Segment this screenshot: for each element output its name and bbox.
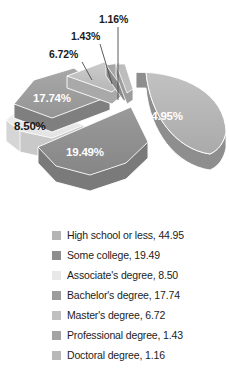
legend-item-professional: Professional degree, 1.43 — [0, 325, 229, 345]
legend-swatch-icon — [52, 231, 61, 240]
legend-swatch-icon — [52, 251, 61, 260]
legend-label: Some college, 19.49 — [67, 249, 160, 261]
legend-label: Master's degree, 6.72 — [67, 309, 165, 321]
legend-swatch-icon — [52, 271, 61, 280]
legend-label: High school or less, 44.95 — [67, 229, 184, 241]
slice-label-associates: 8.50% — [14, 120, 46, 132]
legend-label: Doctoral degree, 1.16 — [67, 349, 165, 361]
slice-callout-professional: 1.43% — [71, 30, 100, 42]
legend-swatch-icon — [52, 351, 61, 360]
legend-item-masters: Master's degree, 6.72 — [0, 305, 229, 325]
legend-swatch-icon — [52, 291, 61, 300]
slice-callout-doctoral: 1.16% — [99, 13, 128, 25]
legend-label: Bachelor's degree, 17.74 — [67, 289, 180, 301]
chart-legend: High school or less, 44.95 Some college,… — [0, 225, 229, 365]
pie-graphic — [0, 0, 229, 218]
legend-swatch-icon — [52, 311, 61, 320]
legend-swatch-icon — [52, 331, 61, 340]
legend-item-doctoral: Doctoral degree, 1.16 — [0, 345, 229, 365]
legend-label: Associate's degree, 8.50 — [67, 269, 178, 281]
slice-label-bachelors: 17.74% — [33, 92, 71, 104]
legend-item-high-school: High school or less, 44.95 — [0, 225, 229, 245]
legend-item-associates: Associate's degree, 8.50 — [0, 265, 229, 285]
slice-label-high-school: 44.95% — [145, 110, 183, 122]
slice-callout-masters: 6.72% — [49, 48, 78, 60]
legend-label: Professional degree, 1.43 — [67, 329, 183, 341]
legend-item-some-college: Some college, 19.49 — [0, 245, 229, 265]
pie-plot-area: 1.16% 1.43% 6.72% 44.95% 19.49% 17.74% 8… — [0, 0, 229, 218]
pie-chart: 1.16% 1.43% 6.72% 44.95% 19.49% 17.74% 8… — [0, 0, 229, 374]
slice-label-some-college: 19.49% — [66, 146, 104, 158]
legend-item-bachelors: Bachelor's degree, 17.74 — [0, 285, 229, 305]
